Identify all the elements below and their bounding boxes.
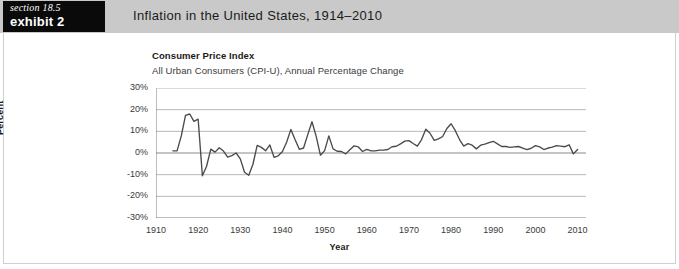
inflation-line-chart (156, 88, 586, 218)
x-tick-label-1970: 1970 (389, 225, 429, 235)
plot-area (156, 88, 586, 218)
y-tick-label--30: -30% (108, 212, 148, 222)
y-tick-label--20: -20% (108, 190, 148, 200)
x-axis-label: Year (0, 242, 679, 252)
x-tick-label-1980: 1980 (431, 225, 471, 235)
exhibit-section-label: section 18.5 (10, 2, 105, 14)
exhibit-figure: section 18.5 exhibit 2 Inflation in the … (0, 0, 679, 269)
y-tick-label-10: 10% (108, 125, 148, 135)
x-tick-label-2000: 2000 (515, 225, 555, 235)
y-tick-label-30: 30% (108, 82, 148, 92)
y-axis-label: Percent (0, 101, 5, 135)
x-tick-label-1950: 1950 (305, 225, 345, 235)
exhibit-number-label: exhibit 2 (10, 14, 105, 29)
chart-subtitle: All Urban Consumers (CPI-U), Annual Perc… (152, 65, 404, 76)
exhibit-tag: section 18.5 exhibit 2 (3, 1, 105, 32)
x-tick-label-1990: 1990 (473, 225, 513, 235)
x-tick-label-2010: 2010 (558, 225, 598, 235)
x-tick-label-1920: 1920 (178, 225, 218, 235)
x-tick-label-1960: 1960 (347, 225, 387, 235)
x-tick-label-1930: 1930 (220, 225, 260, 235)
chart-title: Consumer Price Index (152, 50, 254, 61)
x-tick-label-1940: 1940 (262, 225, 302, 235)
exhibit-title: Inflation in the United States, 1914–201… (133, 8, 382, 23)
y-tick-label-20: 20% (108, 104, 148, 114)
x-tick-label-1910: 1910 (136, 225, 176, 235)
y-tick-label--10: -10% (108, 169, 148, 179)
exhibit-header-band: section 18.5 exhibit 2 Inflation in the … (0, 0, 679, 33)
y-tick-label-0: 0% (108, 147, 148, 157)
